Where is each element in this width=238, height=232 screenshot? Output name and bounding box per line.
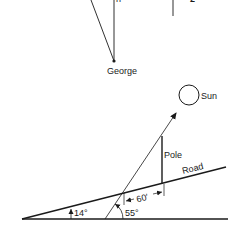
sun-icon [179, 85, 199, 105]
sun-angle-marker: 55° [115, 204, 139, 219]
sun-label: Sun [201, 91, 217, 101]
fragment-right-label: 2 [190, 0, 195, 4]
distance-label: 60′ [135, 192, 149, 205]
diagram-canvas: h 2 George Sun Road Pole 60′ 14° [0, 0, 238, 232]
sight-line [91, 0, 114, 61]
top-figure: h 2 George [91, 0, 195, 76]
road-angle-label: 14° [74, 208, 88, 218]
distance-dimension: 60′ [124, 184, 164, 205]
george-label: George [107, 66, 137, 76]
george-point [112, 59, 115, 62]
pole-label: Pole [164, 150, 182, 160]
fragment-left-label: h [116, 0, 121, 4]
road-angle-marker: 14° [71, 208, 88, 219]
sun-angle-label: 55° [125, 208, 139, 218]
bottom-figure: Sun Road Pole 60′ 14° 55° [22, 85, 228, 219]
